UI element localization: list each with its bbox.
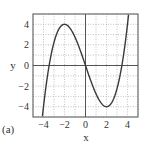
y-tick-label: −4 xyxy=(18,101,29,112)
y-tick-label: 4 xyxy=(24,19,29,30)
x-tick-label: 2 xyxy=(104,119,109,130)
y-tick-label: 2 xyxy=(24,39,29,50)
chart-svg: −4−2024 420−2−4 x y (a) xyxy=(0,0,146,145)
y-tick-label: 0 xyxy=(24,60,29,71)
y-tick-label: −2 xyxy=(18,81,29,92)
x-axis-label: x xyxy=(83,131,89,143)
x-tick-label: 0 xyxy=(83,119,88,130)
x-tick-label: 4 xyxy=(125,119,130,130)
panel-label: (a) xyxy=(2,123,15,136)
x-tick-label: −4 xyxy=(38,119,49,130)
y-tick-labels: 420−2−4 xyxy=(18,19,29,112)
x-tick-label: −2 xyxy=(59,119,70,130)
y-axis-label: y xyxy=(10,59,16,71)
x-tick-labels: −4−2024 xyxy=(38,119,130,130)
